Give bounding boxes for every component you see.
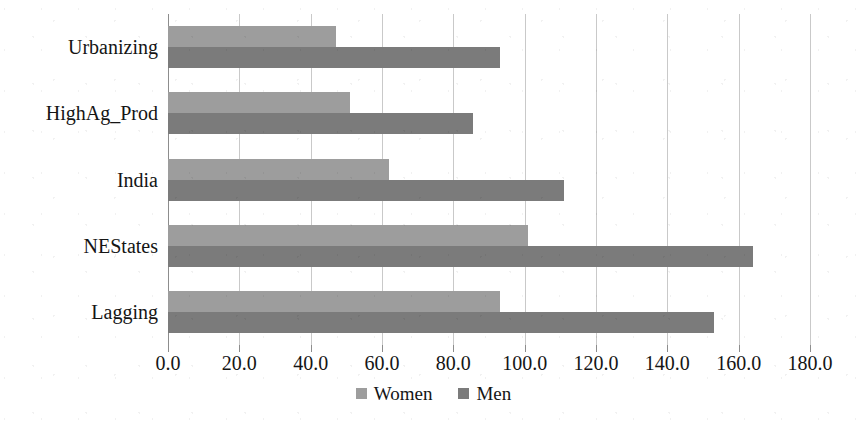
bar-women-urbanizing (168, 26, 336, 47)
bar-men-highag_prod (168, 113, 473, 134)
legend-label: Men (476, 383, 511, 404)
x-tick-mark (810, 345, 811, 352)
x-tick-label: 140.0 (627, 352, 707, 374)
category-label-highag_prod: HighAg_Prod (0, 102, 158, 124)
x-tick-label: 60.0 (342, 352, 422, 374)
x-tick-mark (596, 345, 597, 352)
legend-swatch-icon (356, 388, 367, 399)
legend-swatch-icon (458, 388, 469, 399)
x-tick-label: 120.0 (556, 352, 636, 374)
x-tick-mark (311, 345, 312, 352)
bar-men-lagging (168, 312, 714, 333)
x-tick-label: 40.0 (271, 352, 351, 374)
category-label-nestates: NEStates (0, 235, 158, 257)
x-tick-mark (239, 345, 240, 352)
legend-item-men[interactable]: Men (458, 383, 511, 404)
bar-group (168, 291, 810, 333)
x-tick-label: 100.0 (485, 352, 565, 374)
bar-women-nestates (168, 225, 528, 246)
x-tick-label: 80.0 (413, 352, 493, 374)
bar-men-nestates (168, 246, 753, 267)
x-tick-mark (739, 345, 740, 352)
bar-chart: UrbanizingHighAg_ProdIndiaNEStatesLaggin… (0, 0, 867, 425)
x-tick-mark (168, 345, 169, 352)
x-tick-mark (382, 345, 383, 352)
bar-women-india (168, 159, 389, 180)
x-tick-label: 160.0 (699, 352, 779, 374)
bar-group (168, 159, 810, 201)
bar-group (168, 92, 810, 134)
legend-item-women[interactable]: Women (356, 383, 433, 404)
bar-men-urbanizing (168, 47, 500, 68)
plot-area (168, 14, 810, 345)
x-tick-label: 20.0 (199, 352, 279, 374)
category-label-india: India (0, 169, 158, 191)
chart-legend: WomenMen (0, 383, 867, 404)
gridline (810, 14, 811, 345)
legend-label: Women (374, 383, 433, 404)
x-tick-mark (525, 345, 526, 352)
category-label-lagging: Lagging (0, 301, 158, 323)
bar-group (168, 225, 810, 267)
bar-men-india (168, 180, 564, 201)
x-tick-label: 180.0 (770, 352, 850, 374)
x-tick-mark (453, 345, 454, 352)
bar-women-lagging (168, 291, 500, 312)
bar-group (168, 26, 810, 68)
x-tick-mark (667, 345, 668, 352)
category-label-urbanizing: Urbanizing (0, 36, 158, 58)
x-tick-label: 0.0 (128, 352, 208, 374)
bar-women-highag_prod (168, 92, 350, 113)
